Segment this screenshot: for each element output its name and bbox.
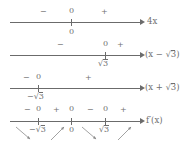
sign-positive: +: [85, 74, 92, 82]
sign-negative: −: [23, 74, 30, 82]
sign-positive: +: [117, 41, 124, 49]
factor-suffix: ): [176, 49, 179, 59]
number-line-row-x-plus-sqrt3: − 0 + −√3 (x + √3): [0, 66, 182, 100]
axis-arrowhead-icon: [140, 19, 145, 25]
tick-zero: [71, 19, 72, 26]
slope-arrows-group: [0, 99, 182, 151]
axis-line: [10, 88, 141, 89]
zero-above-tick: 0: [69, 7, 74, 15]
factor-prefix: (x +: [145, 82, 166, 92]
factor-label-x-minus-sqrt3: (x − √3): [145, 50, 180, 59]
radical-sqrt3: √3: [166, 83, 177, 92]
factor-prefix: (x −: [145, 49, 166, 59]
factor-label-4x: 4x: [147, 17, 157, 26]
number-line-row-4x: − 0 + 0 4x: [0, 0, 182, 34]
radical-sqrt3: √3: [166, 50, 177, 59]
sign-chart-diagram: − 0 + 0 4x − 0 + √3 (x − √3) − 0 + −√3 (…: [0, 0, 182, 151]
zero-above-tick: 0: [103, 40, 108, 48]
sign-negative: −: [40, 8, 47, 16]
axis-line: [10, 22, 141, 23]
zero-above-tick: 0: [36, 73, 41, 81]
slope-arrow-decreasing-2: [82, 127, 96, 139]
radical-bar: [171, 50, 175, 51]
radical-bar: [171, 83, 175, 84]
tick-sqrt3: [105, 52, 106, 59]
slope-arrow-decreasing-1: [16, 127, 30, 139]
number-line-row-f-prime: − 0 + 0 − 0 + −√3 0 √3 f′(x): [0, 99, 182, 151]
tick-neg-sqrt3: [38, 85, 39, 92]
sign-negative: −: [57, 41, 64, 49]
slope-arrow-increasing-1: [51, 127, 64, 140]
factor-suffix: ): [176, 82, 179, 92]
factor-label-f-prime: f′(x): [146, 116, 163, 125]
axis-line: [10, 55, 141, 56]
number-line-row-x-minus-sqrt3: − 0 + √3 (x − √3): [0, 33, 182, 67]
sign-positive: +: [101, 8, 108, 16]
factor-label-x-plus-sqrt3: (x + √3): [145, 83, 180, 92]
radical-bar: [39, 92, 43, 93]
radical-bar: [103, 59, 107, 60]
slope-arrow-increasing-2: [118, 127, 131, 140]
